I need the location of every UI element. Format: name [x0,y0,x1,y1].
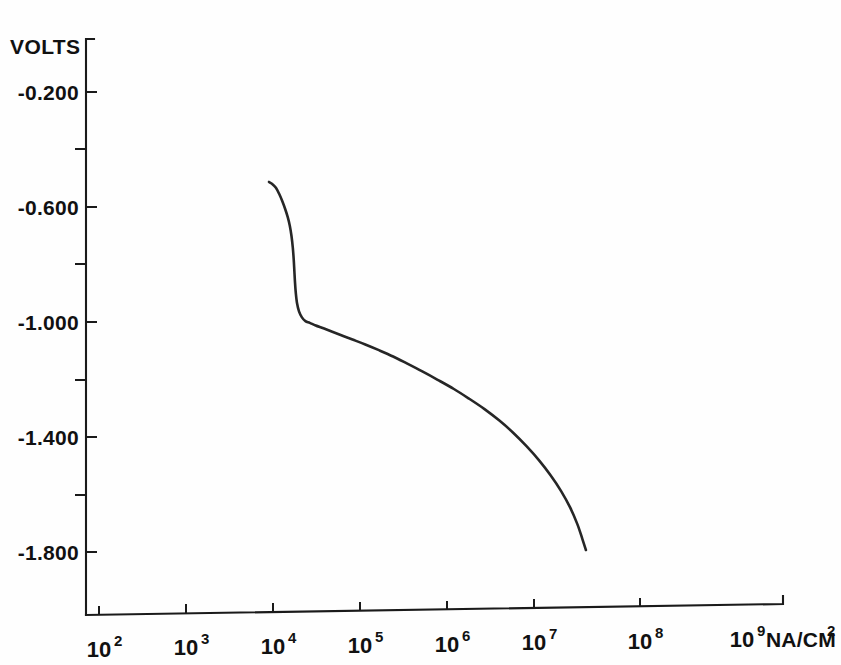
x-unit-exponent: 2 [827,622,835,639]
x-tick-exponent: 6 [462,627,470,644]
data-curve [269,182,586,550]
y-major-ticks [86,92,97,552]
x-tick-mantissa: 10 [87,637,111,662]
x-tick-mantissa: 10 [261,634,285,659]
x-tick-label: 10 4 [261,629,297,659]
x-tick-mantissa: 10 [628,629,652,654]
x-tick-label: 10 6 [435,627,471,657]
x-tick-label: 10 8 [628,624,664,654]
y-tick-label: -1.000 [18,311,79,334]
x-tick-mantissa: 10 [174,635,198,660]
x-tick-label: 10 3 [174,630,210,660]
chart-page: VOLTS -0.200 -0.600 -1.000 -1.400 -1.800… [0,0,841,665]
x-tick-exponent: 5 [375,628,383,645]
x-tick-exponent: 7 [549,625,557,642]
x-tick-mantissa: 10 [522,630,546,655]
x-tick-exponent: 8 [655,624,663,641]
x-tick-exponent: 3 [201,630,209,647]
x-tick-mantissa: 10 [730,627,754,652]
y-tick-label: -0.600 [18,196,79,219]
y-tick-label: -0.200 [18,81,79,104]
x-tick-exponent: 9 [757,622,765,639]
polarization-chart: VOLTS -0.200 -0.600 -1.000 -1.400 -1.800… [0,0,841,665]
x-tick-mantissa: 10 [435,632,459,657]
y-tick-label: -1.800 [18,541,79,564]
x-tick-label: 10 5 [348,628,384,658]
y-axis-line [86,39,94,615]
x-tick-label: 10 2 [87,632,123,662]
x-tick-mantissa: 10 [348,633,372,658]
x-tick-label: 10 7 [522,625,558,655]
x-tick-exponent: 4 [288,629,297,646]
y-axis-title: VOLTS [10,35,80,58]
y-tick-label: -1.400 [18,426,79,449]
x-unit-text: NA/CM [766,628,836,651]
x-tick-exponent: 2 [114,632,122,649]
x-axis-line [86,596,783,615]
x-axis-unit-label: 10 9 NA/CM 2 [730,622,836,652]
